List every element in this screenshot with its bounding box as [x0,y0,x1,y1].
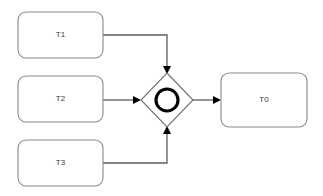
task-label: T0 [259,95,269,104]
task-label: T1 [56,30,66,39]
diagram-svg-surface: T1 T2 T3 T0 [0,0,323,196]
task-node-t0[interactable]: T0 [221,73,307,127]
arrowhead-right-icon [213,96,221,104]
sequence-flow-t2-to-gateway[interactable] [103,96,141,104]
task-node-t2[interactable]: T2 [18,76,103,122]
sequence-flow-t1-to-gateway[interactable] [103,35,171,74]
task-label: T2 [56,94,66,103]
arrowhead-right-icon [133,96,141,104]
flow-path [103,35,167,68]
sequence-flow-gateway-to-t0[interactable] [193,96,221,104]
task-node-t3[interactable]: T3 [18,140,103,186]
task-node-t1[interactable]: T1 [18,12,103,58]
task-label: T3 [56,158,66,167]
bpmn-diagram-canvas: T1 T2 T3 T0 [0,0,323,196]
sequence-flow-t3-to-gateway[interactable] [103,126,171,163]
flow-path [103,132,167,163]
gateway-diamond-shape [141,73,193,127]
gateway-node[interactable] [141,73,193,127]
